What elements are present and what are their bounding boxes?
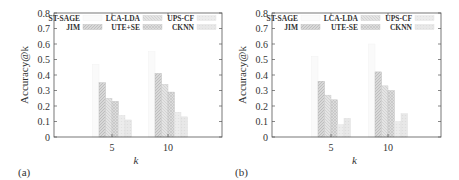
bar-lca-lda [382,86,389,137]
legend-swatch [301,25,320,30]
y-tick-label: 0.6 [38,39,51,50]
legend-swatch [415,16,434,21]
bar-ups-cf [175,112,182,137]
legend-label: ST-SAGE [49,14,80,23]
y-tick-label: 0.3 [38,85,51,96]
legend-swatch [83,16,102,21]
y-tick-label: 0 [263,132,268,143]
y-tick-label: 0.5 [256,54,269,65]
bar-cknn [181,117,188,137]
bar-jim [155,73,162,137]
bar-jim [99,83,106,137]
legend: ST-SAGEJIMLCA-LDAUTE-SEUPS-CFCKNN [267,14,434,32]
bar-cknn [125,120,132,137]
bar-st-sage [149,52,156,137]
bars [312,44,408,137]
bar-ute-se [112,101,119,137]
bar-ups-cf [119,115,126,137]
legend-label: UPS-CF [167,14,194,23]
legend-swatch [197,25,216,30]
y-tick-label: 0.3 [256,85,269,96]
bar-chart-a: 00.10.20.30.40.50.60.70.8Accuracy@k510k(… [0,0,229,180]
bar-st-sage [93,64,100,137]
legend-label: LCA-LDA [106,14,141,23]
x-tick-label: 10 [383,142,393,153]
chart-panel-b: 00.10.20.30.40.50.60.70.8Accuracy@k510k(… [218,0,447,180]
y-tick-label: 0.2 [38,101,51,112]
legend-swatch [361,25,380,30]
bar-cknn [401,114,408,137]
x-axis-label: k [134,154,140,166]
y-axis-label: Accuracy@k [236,46,248,104]
x-tick-label: 5 [110,142,115,153]
bar-ute-se [331,100,338,137]
y-tick-label: 0.7 [256,23,269,34]
chart-panel-a: 00.10.20.30.40.50.60.70.8Accuracy@k510k(… [0,0,229,180]
legend-label: JIM [66,23,80,32]
legend-label: JIM [284,23,298,32]
y-tick-label: 0.2 [256,101,269,112]
panel-label: (a) [18,166,31,179]
bar-st-sage [312,56,319,137]
bar-lca-lda [162,84,169,137]
legend-swatch [83,25,102,30]
legend-label: LCA-LDA [324,14,359,23]
y-tick-label: 0.1 [256,116,269,127]
bar-st-sage [369,44,376,137]
legend-swatch [143,25,162,30]
bar-ute-se [388,91,395,138]
y-tick-label: 0.5 [38,54,51,65]
legend-label: CKNN [390,23,413,32]
y-tick-label: 0 [45,132,50,143]
bar-cknn [344,118,351,137]
bar-jim [375,72,382,137]
legend-label: UPS-CF [385,14,412,23]
x-axis-label: k [352,154,358,166]
bar-ute-se [168,92,175,137]
y-tick-label: 0.6 [256,39,269,50]
bar-chart-b: 00.10.20.30.40.50.60.70.8Accuracy@k510k(… [218,0,459,180]
legend-swatch [415,25,434,30]
y-tick-label: 0.4 [38,70,51,81]
bar-lca-lda [106,98,113,137]
legend-label: ST-SAGE [267,14,298,23]
legend-swatch [197,16,216,21]
y-tick-label: 0.4 [256,70,269,81]
bars [93,52,188,137]
legend-label: UTE+SE [111,23,140,32]
bar-ups-cf [338,125,345,137]
y-axis-label: Accuracy@k [18,46,30,104]
legend-label: UTE-SE [331,23,358,32]
x-tick-label: 5 [329,142,334,153]
y-tick-label: 0.7 [38,23,51,34]
bar-ups-cf [395,122,402,138]
legend-swatch [361,16,380,21]
bar-lca-lda [325,95,332,137]
legend-label: CKNN [172,23,195,32]
x-tick-label: 10 [163,142,173,153]
legend-swatch [143,16,162,21]
legend-swatch [301,16,320,21]
panel-label: (b) [235,166,248,179]
bar-jim [318,81,325,137]
y-tick-label: 0.1 [38,116,51,127]
legend: ST-SAGEJIMLCA-LDAUTE+SEUPS-CFCKNN [49,14,216,32]
